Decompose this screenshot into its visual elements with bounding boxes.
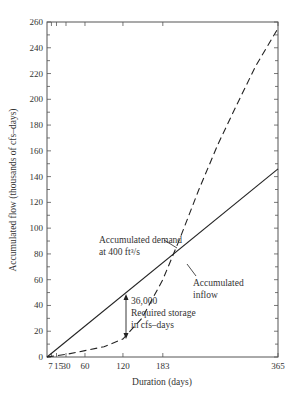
storage-label-line1: Required storage bbox=[131, 308, 196, 318]
chart-svg: 020406080100120140160180200220240260 715… bbox=[0, 0, 299, 409]
inflow-leader-line bbox=[187, 264, 196, 276]
x-axis-ticks: 7153060120183365 bbox=[48, 22, 285, 371]
x-tick-label: 30 bbox=[61, 361, 71, 371]
y-tick-label: 40 bbox=[34, 300, 44, 310]
y-tick-label: 100 bbox=[30, 223, 44, 233]
y-tick-label: 200 bbox=[30, 94, 44, 104]
x-tick-label: 183 bbox=[156, 361, 170, 371]
y-tick-label: 260 bbox=[30, 17, 44, 27]
storage-label-line2: in cfs–days bbox=[131, 320, 174, 330]
y-tick-label: 180 bbox=[30, 120, 44, 130]
y-tick-label: 220 bbox=[30, 69, 44, 79]
x-tick-label: 365 bbox=[271, 361, 285, 371]
y-tick-label: 80 bbox=[34, 249, 44, 259]
y-tick-label: 60 bbox=[34, 275, 44, 285]
storage-value: 36,000 bbox=[131, 296, 157, 306]
x-tick-label: 60 bbox=[80, 361, 90, 371]
y-tick-label: 140 bbox=[30, 172, 44, 182]
y-tick-label: 20 bbox=[34, 326, 44, 336]
y-tick-label: 0 bbox=[39, 352, 44, 362]
plot-frame bbox=[47, 22, 278, 357]
y-tick-label: 160 bbox=[30, 146, 44, 156]
storage-arrow bbox=[124, 294, 129, 339]
x-axis-title: Duration (days) bbox=[132, 377, 192, 388]
y-tick-label: 240 bbox=[30, 43, 44, 53]
y-tick-label: 120 bbox=[30, 197, 44, 207]
inflow-label-line2: inflow bbox=[193, 290, 218, 300]
x-tick-label: 7 bbox=[48, 361, 53, 371]
y-axis-title: Accumulated flow (thousands of cfs–days) bbox=[8, 108, 19, 271]
demand-label-line2: at 400 ft³/s bbox=[99, 247, 140, 257]
x-tick-label: 120 bbox=[116, 361, 130, 371]
inflow-label-line1: Accumulated bbox=[193, 278, 244, 288]
